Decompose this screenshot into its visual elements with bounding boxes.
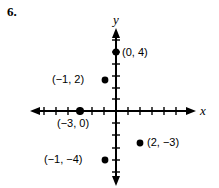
coordinate-plane <box>0 0 219 188</box>
y-axis-top-arrow <box>112 28 120 38</box>
data-point <box>102 77 109 84</box>
x-axis-label: x <box>200 104 206 117</box>
worksheet-figure: 6. <box>0 0 219 188</box>
point-label-0-4: (0, 4) <box>122 46 148 58</box>
data-point <box>76 107 84 115</box>
y-axis-bottom-arrow <box>112 176 120 186</box>
point-label-2-neg3: (2, −3) <box>147 136 179 148</box>
x-axis-left-arrow <box>30 107 40 115</box>
y-axis-label: y <box>113 13 119 26</box>
point-label-neg3-0: (−3, 0) <box>57 117 89 129</box>
point-label-neg1-neg4: (−1, −4) <box>44 153 83 165</box>
point-label-neg1-2: (−1, 2) <box>52 73 84 85</box>
data-point <box>102 157 109 164</box>
x-axis-right-arrow <box>186 107 196 115</box>
data-point <box>137 140 144 147</box>
data-point <box>112 48 119 55</box>
